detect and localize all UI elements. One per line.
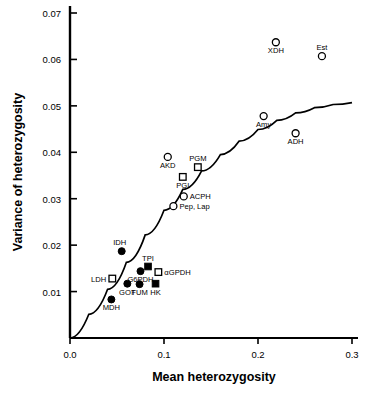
- x-axis-ticks: 0.00.10.20.3: [63, 338, 358, 360]
- x-tick-label: 0.3: [345, 349, 358, 360]
- data-label-αgpdh: αGPDH: [164, 268, 190, 277]
- data-point-mdh: [108, 296, 115, 303]
- y-tick-label: 0.02: [43, 240, 62, 251]
- data-label-amy: Amy: [256, 120, 271, 129]
- data-point-xdh: [272, 39, 279, 46]
- y-tick-label: 0.03: [43, 194, 62, 205]
- plot-canvas: 0.00.10.20.3 0.010.020.030.040.050.060.0…: [0, 0, 372, 394]
- x-tick-label: 0.2: [251, 349, 264, 360]
- data-point-pgm: [195, 164, 202, 171]
- data-label-acph: ACPH: [190, 192, 211, 201]
- data-label-hk: HK: [150, 288, 161, 297]
- y-tick-label: 0.07: [43, 8, 62, 19]
- data-label-ldh: LDH: [91, 275, 106, 284]
- data-label-akd: AKD: [160, 161, 176, 170]
- y-tick-label: 0.05: [43, 101, 62, 112]
- data-label-est: Est: [316, 43, 328, 52]
- data-label-pgi: PGI: [176, 181, 189, 190]
- y-tick-label: 0.04: [43, 147, 62, 158]
- data-point-labels-group: XDHEstAmyADHAKDPGMPGIACPHPep, LapIDHTPIα…: [91, 43, 328, 312]
- y-axis-ticks: 0.010.020.030.040.050.060.07: [43, 8, 78, 298]
- data-point-est: [318, 53, 325, 60]
- x-tick-label: 0.1: [157, 349, 170, 360]
- data-point-ldh: [109, 275, 116, 282]
- y-axis-title: Variance of heterozygosity: [11, 93, 25, 251]
- data-point-akd: [164, 153, 171, 160]
- y-tick-label: 0.01: [43, 287, 62, 298]
- data-point-acph: [180, 193, 187, 200]
- data-point-amy: [260, 113, 267, 120]
- data-label-pep-lap: Pep, Lap: [179, 202, 209, 211]
- data-label-fum: FUM: [131, 288, 147, 297]
- data-point-pep-lap: [170, 203, 177, 210]
- data-label-pgm: PGM: [189, 154, 206, 163]
- data-label-mdh: MDH: [103, 303, 120, 312]
- data-label-idh: IDH: [113, 238, 126, 247]
- data-point-idh: [118, 248, 125, 255]
- data-markers-group: [108, 39, 326, 303]
- data-point-tpi: [145, 263, 152, 270]
- x-tick-label: 0.0: [63, 349, 76, 360]
- data-point-pgi: [180, 174, 187, 181]
- x-axis-title: Mean heterozygosity: [152, 370, 276, 384]
- data-label-g6pdh: G6PDH: [127, 275, 153, 284]
- data-label-adh: ADH: [288, 137, 304, 146]
- data-label-xdh: XDH: [268, 46, 284, 55]
- axes-group: [70, 6, 358, 338]
- data-label-tpi: TPI: [142, 254, 154, 263]
- data-point-g6pdh: [137, 268, 144, 275]
- data-point-adh: [292, 130, 299, 137]
- data-point-αgpdh: [155, 269, 162, 276]
- y-tick-label: 0.06: [43, 54, 62, 65]
- scatter-plot-figure: 0.00.10.20.3 0.010.020.030.040.050.060.0…: [0, 0, 372, 394]
